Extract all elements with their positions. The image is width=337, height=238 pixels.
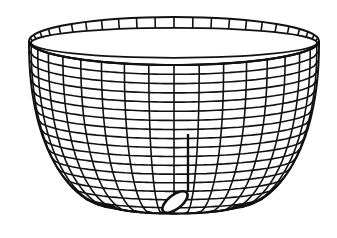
rim-tick [298, 29, 300, 35]
rim-tick [30, 38, 32, 41]
rim-tick [48, 29, 50, 35]
bowl-mesh [29, 41, 319, 214]
rim-tick [306, 32, 308, 37]
rim-tick [211, 18, 212, 29]
rim-tick [34, 35, 36, 39]
rim-tick [59, 26, 61, 33]
rim-tick [316, 38, 318, 41]
rim-tick [72, 24, 73, 32]
rim-inner [31, 28, 317, 58]
rim-tick [287, 26, 289, 33]
rim-tick [275, 24, 276, 32]
rim-tick [137, 18, 138, 29]
bowl-rim [29, 17, 319, 65]
rim-tick [102, 20, 103, 30]
mesh-wire [48, 53, 121, 210]
rim-tick [261, 22, 262, 31]
rim-tick [119, 19, 120, 29]
rim-tick [312, 35, 314, 39]
rim-tick [229, 19, 230, 29]
rim-tick [246, 20, 247, 30]
figure-canvas: Line drawing of a wire-mesh bowl with a … [0, 0, 337, 238]
mesh-bowl-drawing [0, 0, 337, 238]
music-note-icon [159, 134, 191, 217]
rim-tick [86, 22, 87, 31]
mesh-wire [227, 53, 300, 210]
rim-tick [40, 32, 42, 37]
